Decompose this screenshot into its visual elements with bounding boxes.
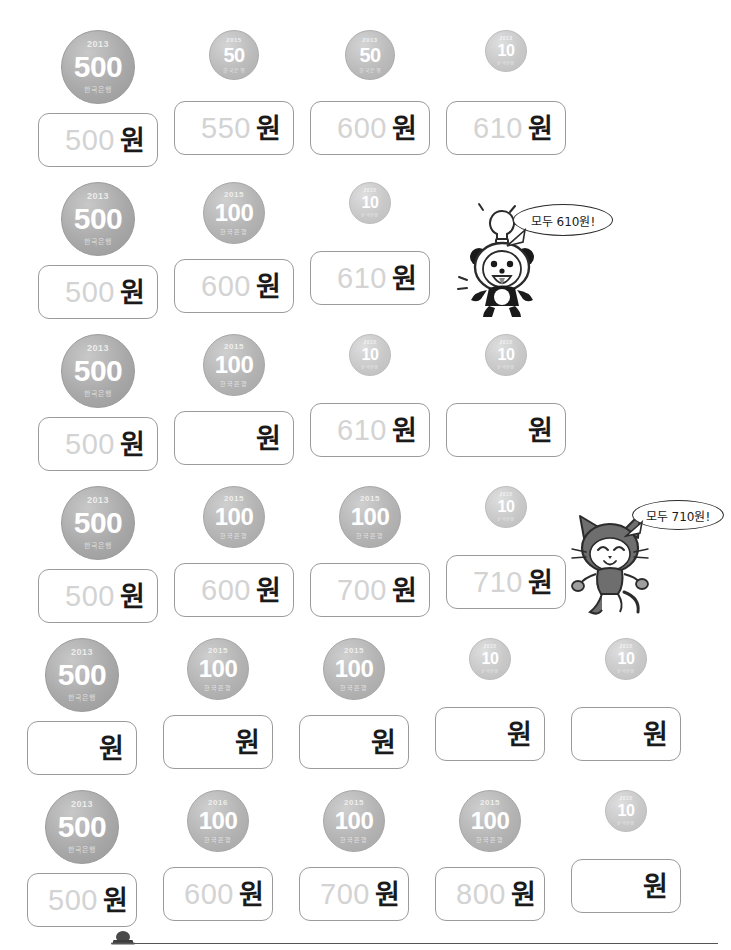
- answer-amount: 500: [65, 278, 115, 307]
- coin-answer-cell: 2015 50 한국은행 550 원: [166, 30, 302, 155]
- coin-denomination-label: 500: [74, 52, 123, 82]
- answer-box[interactable]: 500 원: [38, 113, 158, 167]
- coin-bank-label: 한국은행: [68, 694, 96, 701]
- answer-box-empty[interactable]: 원: [163, 715, 273, 769]
- currency-unit-label: 원: [643, 721, 668, 748]
- coin-bank-label: 한국은행: [84, 542, 112, 549]
- coin-year-label: 2015: [619, 796, 632, 801]
- footer-coin-mark-icon: [108, 929, 138, 947]
- currency-unit-label: 원: [392, 417, 417, 444]
- coin-year-label: 2015: [619, 644, 632, 649]
- coin-denomination-label: 10: [362, 347, 379, 363]
- answer-box[interactable]: 710 원: [446, 555, 566, 609]
- answer-box[interactable]: 610 원: [310, 403, 430, 457]
- answer-box-empty[interactable]: 원: [435, 707, 545, 761]
- coin-year-label: 2013: [362, 37, 377, 43]
- answer-box-empty[interactable]: 원: [299, 715, 409, 769]
- answer-amount: 550: [201, 114, 251, 143]
- coin-answer-cell: 2015 10 한국은행 710 원: [438, 486, 574, 609]
- coin-100-icon: 2015 100 한국은행: [323, 790, 385, 852]
- coin-year-label: 2015: [363, 340, 376, 345]
- answer-box-empty[interactable]: 원: [446, 403, 566, 457]
- currency-unit-label: 원: [120, 127, 145, 154]
- currency-unit-label: 원: [256, 425, 281, 452]
- answer-box[interactable]: 500 원: [38, 265, 158, 319]
- coin-bank-label: 한국은행: [223, 68, 245, 73]
- coin-denomination-label: 10: [618, 803, 635, 819]
- coin-answer-cell: 2015 10 한국은행 610 원: [302, 334, 438, 457]
- coin-bank-label: 한국은행: [340, 685, 368, 691]
- coin-50-icon: 2015 50 한국은행: [209, 30, 259, 80]
- coin-year-label: 2015: [363, 188, 376, 193]
- answer-box[interactable]: 500 원: [38, 417, 158, 471]
- coin-answer-cell: 2013 10 한국은행 610 원: [438, 30, 574, 155]
- coin-bank-label: 한국은행: [481, 670, 499, 674]
- coin-denomination-label: 10: [362, 195, 379, 211]
- answer-box[interactable]: 600 원: [163, 867, 273, 921]
- coin-bank-label: 한국은행: [476, 837, 504, 843]
- coin-bank-label: 한국은행: [497, 518, 515, 522]
- answer-box[interactable]: 700 원: [299, 867, 409, 921]
- answer-box[interactable]: 500 원: [27, 873, 137, 927]
- currency-unit-label: 원: [528, 115, 553, 142]
- answer-box[interactable]: 700 원: [310, 563, 430, 617]
- answer-amount: 700: [337, 576, 387, 605]
- coin-denomination-label: 500: [74, 508, 123, 538]
- answer-box-empty[interactable]: 원: [27, 721, 137, 775]
- answer-box[interactable]: 600 원: [174, 259, 294, 313]
- answer-box[interactable]: 500 원: [38, 569, 158, 623]
- coin-denomination-label: 100: [335, 657, 374, 681]
- coin-10-icon: 2015 10 한국은행: [485, 334, 527, 376]
- answer-box-empty[interactable]: 원: [571, 707, 681, 761]
- coin-100-icon: 2015 100 한국은행: [187, 638, 249, 700]
- answer-box-empty[interactable]: 원: [571, 859, 681, 913]
- coin-bank-label: 한국은행: [84, 238, 112, 245]
- coin-answer-cell: 2013 500 한국은행 500 원: [30, 182, 166, 319]
- answer-box[interactable]: 600 원: [174, 563, 294, 617]
- currency-unit-label: 원: [256, 115, 281, 142]
- answer-box[interactable]: 600 원: [310, 101, 430, 155]
- answer-box[interactable]: 550 원: [174, 101, 294, 155]
- coin-answer-cell: 2016 100 한국은행 600 원: [163, 790, 273, 921]
- coin-100-icon: 2016 100 한국은행: [187, 790, 249, 852]
- coin-answer-cell: 2015 10 한국은행 원: [571, 790, 681, 913]
- worksheet-page: 2013 500 한국은행 500 원 2015 50 한국은행 550 원 2…: [0, 0, 731, 950]
- coin-year-label: 2013: [71, 648, 93, 657]
- coin-year-label: 2015: [480, 799, 500, 807]
- answer-box[interactable]: 610 원: [310, 251, 430, 305]
- answer-amount: 500: [48, 886, 98, 915]
- currency-unit-label: 원: [528, 417, 553, 444]
- currency-unit-label: 원: [256, 577, 281, 604]
- coin-year-label: 2013: [87, 496, 109, 505]
- currency-unit-label: 원: [103, 887, 128, 914]
- coin-10-icon: 2015 10 한국은행: [485, 486, 527, 528]
- coin-year-label: 2013: [71, 800, 93, 809]
- answer-amount: 600: [184, 880, 234, 909]
- coin-year-label: 2013: [87, 40, 109, 49]
- coin-answer-cell: 2015 10 한국은행 원: [435, 638, 545, 761]
- coin-answer-cell: 2013 500 한국은행 500 원: [30, 334, 166, 471]
- coin-denomination-label: 10: [498, 499, 515, 515]
- worksheet-row: 2013 500 한국은행 원 2015 100 한국은행 원 2015: [0, 638, 731, 788]
- coin-bank-label: 한국은행: [84, 86, 112, 93]
- coin-bank-label: 한국은행: [220, 381, 248, 387]
- currency-unit-label: 원: [511, 881, 536, 908]
- speech-bubble-panda: 모두 610원!: [513, 204, 613, 236]
- coin-500-icon: 2013 500 한국은행: [61, 486, 135, 560]
- answer-box[interactable]: 610 원: [446, 101, 566, 155]
- coin-bank-label: 한국은행: [204, 685, 232, 691]
- speech-text: 모두 710원!: [646, 507, 711, 524]
- coin-denomination-label: 100: [215, 201, 254, 225]
- answer-amount: 500: [65, 126, 115, 155]
- coin-bank-label: 한국은행: [617, 670, 635, 674]
- currency-unit-label: 원: [643, 873, 668, 900]
- coin-100-icon: 2015 100 한국은행: [203, 182, 265, 244]
- coin-100-icon: 2015 100 한국은행: [203, 334, 265, 396]
- answer-box-empty[interactable]: 원: [174, 411, 294, 465]
- currency-unit-label: 원: [120, 583, 145, 610]
- answer-amount: 710: [473, 568, 523, 597]
- currency-unit-label: 원: [120, 279, 145, 306]
- answer-box[interactable]: 800 원: [435, 867, 545, 921]
- coin-year-label: 2013: [499, 36, 512, 41]
- answer-amount: 500: [65, 430, 115, 459]
